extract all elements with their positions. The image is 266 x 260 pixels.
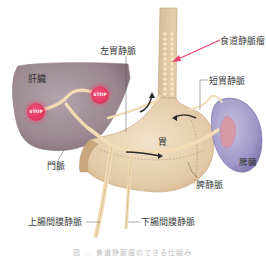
stop-sign-left: STOP	[27, 103, 45, 121]
spleen-label: 脾臓	[239, 157, 257, 167]
inferior-mesenteric-vein-label: 下腸間膜静脈	[141, 217, 195, 227]
liver-label: 肝臓	[28, 74, 46, 84]
stomach-label: 胃	[158, 137, 167, 147]
splenic-vein-label: 脾静脈	[196, 180, 223, 190]
short-gastric-vein-label: 短胃静脈	[209, 76, 245, 86]
left-gastric-vein-label: 左胃静脈	[100, 46, 136, 56]
superior-mesenteric-vein-label: 上腸間膜静脈	[28, 217, 82, 227]
esophageal-varices-label: 食道静脈瘤	[220, 36, 265, 46]
stop-sign-right: STOP	[91, 86, 109, 104]
varices-pointer-arrow	[172, 40, 220, 62]
portal-vein-label: 門脈	[47, 161, 65, 171]
figure-caption: 図 … 食道静脈瘤のできる仕組み	[0, 249, 265, 257]
